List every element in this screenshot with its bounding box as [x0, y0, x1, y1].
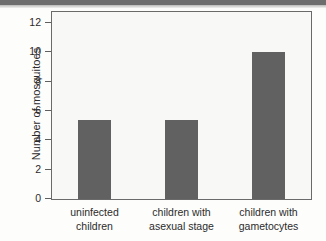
y-tick-mark: [45, 81, 51, 82]
y-tick-mark: [45, 110, 51, 111]
x-axis-label: children withgametocytes: [225, 205, 312, 233]
bar: [252, 52, 285, 199]
x-axis-label-line: children: [51, 219, 138, 233]
x-axis-label-line: asexual stage: [138, 219, 225, 233]
bar-chart-figure: Number of mosquitoes 024681012 uninfecte…: [0, 0, 326, 241]
y-tick-mark: [45, 139, 51, 140]
x-axis-label-line: gametocytes: [225, 219, 312, 233]
bar: [78, 120, 111, 199]
bar: [165, 120, 198, 199]
x-axis-label-line: children with: [225, 205, 312, 219]
y-tick-mark: [45, 169, 51, 170]
scan-artifact-gradient: [0, 5, 326, 8]
y-tick-label: 0: [0, 192, 41, 205]
y-tick-mark: [45, 198, 51, 199]
y-tick-label: 4: [0, 133, 41, 146]
x-axis-label-line: uninfected: [51, 205, 138, 219]
y-tick-mark: [45, 51, 51, 52]
x-axis-label-line: children with: [138, 205, 225, 219]
x-axis-label: children withasexual stage: [138, 205, 225, 233]
y-tick-label: 10: [0, 45, 41, 58]
y-tick-label: 8: [0, 75, 41, 88]
y-tick-label: 2: [0, 163, 41, 176]
y-tick-label: 6: [0, 104, 41, 117]
y-tick-label: 12: [0, 16, 41, 29]
y-tick-mark: [45, 22, 51, 23]
x-axis-label: uninfectedchildren: [51, 205, 138, 233]
